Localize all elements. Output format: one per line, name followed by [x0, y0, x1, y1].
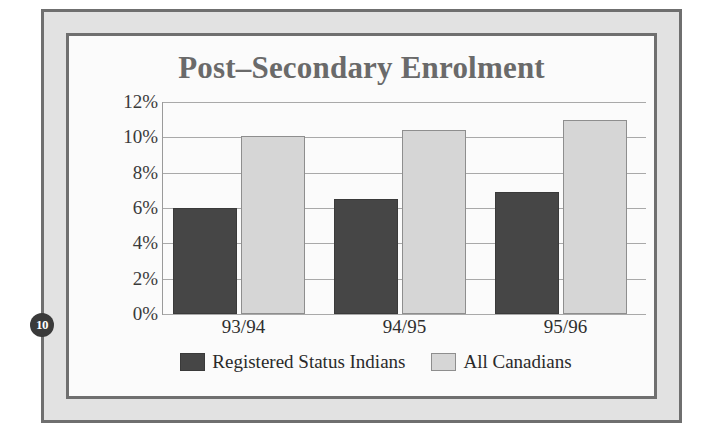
legend-entry-1: All Canadians — [431, 351, 571, 373]
bar-95-96-series-1 — [563, 120, 627, 314]
y-tick-label: 4% — [106, 232, 158, 254]
legend-entry-0: Registered Status Indians — [180, 351, 405, 373]
page-number-badge: 10 — [30, 313, 54, 337]
bar-93-94-series-0 — [173, 208, 237, 314]
slide-root: Post–Secondary Enrolment 0%2%4%6%8%10%12… — [0, 0, 703, 441]
x-tick-label-95-96: 95/96 — [491, 316, 641, 338]
bar-93-94-series-1 — [241, 136, 305, 314]
plot-area — [163, 102, 646, 314]
chart-legend: Registered Status IndiansAll Canadians — [106, 351, 646, 373]
y-tick-label: 6% — [106, 197, 158, 219]
y-tick-label: 10% — [106, 126, 158, 148]
bar-94-95-series-1 — [402, 130, 466, 314]
slide-outer-frame: Post–Secondary Enrolment 0%2%4%6%8%10%12… — [41, 9, 682, 423]
y-tick-label: 12% — [106, 91, 158, 113]
page-title: Post–Secondary Enrolment — [69, 50, 654, 86]
y-tick-label: 8% — [106, 162, 158, 184]
bar-group-94-95 — [324, 102, 485, 314]
y-tick-label: 0% — [106, 303, 158, 325]
slide-inner-frame: Post–Secondary Enrolment 0%2%4%6%8%10%12… — [66, 33, 657, 399]
x-tick-label-93-94: 93/94 — [169, 316, 319, 338]
legend-label-1: All Canadians — [463, 351, 571, 373]
bar-group-95-96 — [485, 102, 646, 314]
y-axis-tick-labels: 0%2%4%6%8%10%12% — [106, 102, 158, 314]
bar-chart: 0%2%4%6%8%10%12% Registered Status India… — [106, 98, 646, 398]
legend-label-0: Registered Status Indians — [212, 351, 405, 373]
bar-94-95-series-0 — [334, 199, 398, 314]
legend-swatch-0 — [180, 353, 205, 371]
y-tick-label: 2% — [106, 268, 158, 290]
bar-95-96-series-0 — [495, 192, 559, 314]
gridline-0% — [163, 314, 646, 315]
x-tick-label-94-95: 94/95 — [330, 316, 480, 338]
legend-swatch-1 — [431, 353, 456, 371]
bar-group-93-94 — [163, 102, 324, 314]
